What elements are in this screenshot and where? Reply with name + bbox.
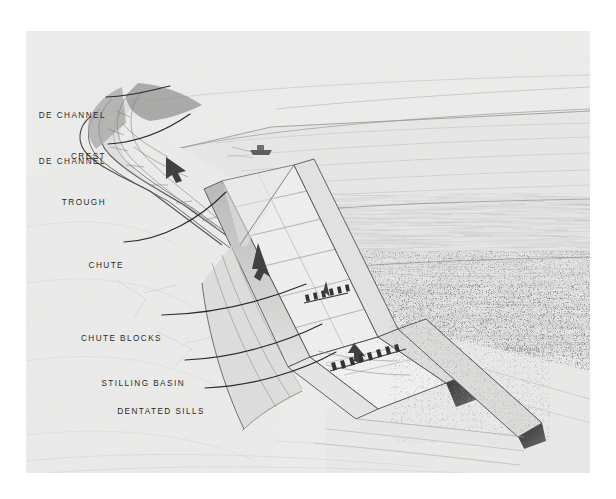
callout-chute: CHUTE — [0, 235, 124, 298]
callout-line-1: DENTATED SILLS — [0, 406, 205, 419]
callout-line-2: TROUGH — [0, 196, 106, 210]
artist-signature: R.E.Nelson — [505, 345, 540, 353]
callout-line-1: DE CHANNEL — [0, 155, 106, 169]
callout-side-channel-trough: DE CHANNEL TROUGH — [0, 128, 106, 236]
callout-line-1: CHUTE — [0, 260, 124, 273]
callout-line-1: CHUTE BLOCKS — [0, 333, 162, 346]
callout-dentated-sills: DENTATED SILLS — [0, 381, 205, 444]
illustration-page: R.E.Nelson DE CHANNEL CREST DE CHANNEL T… — [0, 0, 616, 499]
callout-line-1: DE CHANNEL — [0, 109, 106, 123]
